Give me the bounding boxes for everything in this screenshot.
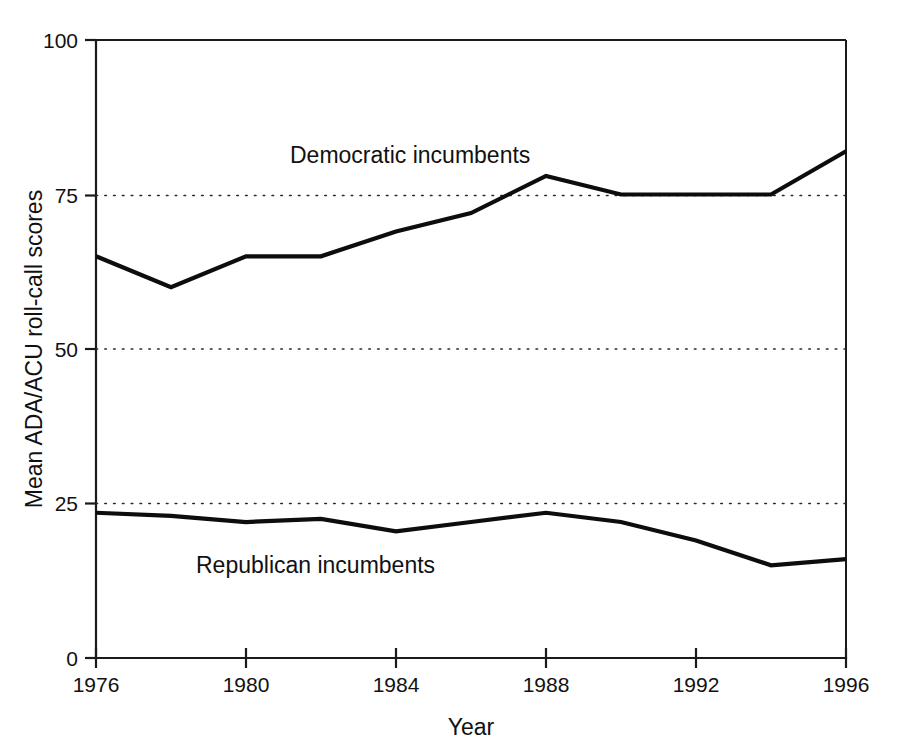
chart-figure: 100 75 50 25 0 1976 1980 1984 1988 1992 … — [0, 0, 897, 748]
y-axis-title: Mean ADA/ACU roll-call scores — [21, 190, 47, 508]
x-tick-label-1984: 1984 — [373, 673, 420, 696]
x-tick-label-1988: 1988 — [523, 673, 570, 696]
y-tick-label-25: 25 — [55, 492, 78, 515]
series-label-democratic: Democratic incumbents — [290, 142, 530, 168]
y-tick-label-100: 100 — [43, 29, 78, 52]
y-tick-label-50: 50 — [55, 338, 78, 361]
series-label-republican: Republican incumbents — [196, 552, 435, 578]
y-tick-label-0: 0 — [66, 647, 78, 670]
x-axis-title: Year — [448, 714, 495, 740]
chart-background — [0, 0, 897, 748]
line-chart-canvas: 100 75 50 25 0 1976 1980 1984 1988 1992 … — [0, 0, 897, 748]
x-tick-label-1996: 1996 — [823, 673, 870, 696]
x-tick-label-1980: 1980 — [223, 673, 270, 696]
y-tick-label-75: 75 — [55, 184, 78, 207]
x-tick-label-1976: 1976 — [73, 673, 120, 696]
x-tick-label-1992: 1992 — [673, 673, 720, 696]
